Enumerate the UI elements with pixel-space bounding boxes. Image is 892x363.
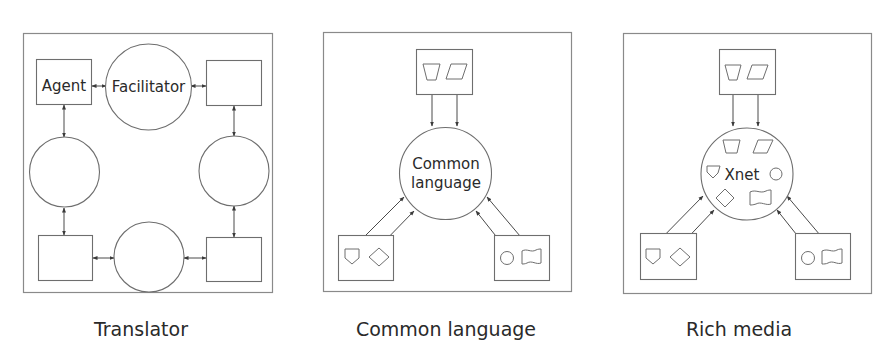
bottom-facilitator-node xyxy=(114,222,184,292)
panel-translator: Agent Facilitator Translator xyxy=(24,34,273,341)
flag-icon xyxy=(822,249,842,264)
bottom-right-agent-node xyxy=(207,238,262,282)
flag-icon xyxy=(522,249,541,264)
hub-circle-icon xyxy=(770,168,782,180)
circle-icon xyxy=(802,252,815,265)
hub-trapezoid-icon xyxy=(723,140,740,153)
hub-flag-icon xyxy=(750,190,771,205)
caption-common-language: Common language xyxy=(356,318,536,340)
top-right-agent-node xyxy=(207,61,262,106)
left-facilitator-node xyxy=(30,137,100,207)
panel-common-language: Common language Common language xyxy=(324,33,572,341)
caption-translator: Translator xyxy=(93,318,188,340)
caption-rich-media: Rich media xyxy=(686,318,792,340)
right-facilitator-node xyxy=(199,136,269,206)
circle-icon xyxy=(501,252,514,265)
bottom-left-agent-node xyxy=(39,236,93,281)
panel-rich-media: Xnet Rich media xyxy=(624,34,872,341)
agent-label: Agent xyxy=(42,77,87,95)
architecture-comparison-diagram: Agent Facilitator Translator Common lang… xyxy=(0,0,892,363)
hub-label: Xnet xyxy=(725,166,760,184)
facilitator-label: Facilitator xyxy=(112,78,186,96)
hub-label-line1: Common xyxy=(412,155,480,173)
hub-label-line2: language xyxy=(411,174,481,192)
